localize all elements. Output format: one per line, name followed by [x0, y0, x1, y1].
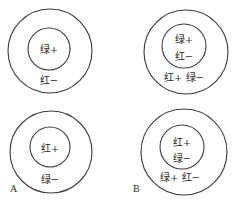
surround-label: 绿+ 红− [160, 171, 200, 183]
center-label-1: 绿+ [175, 33, 193, 45]
center-label-2: 绿− [173, 152, 191, 164]
panel-letter-a: A [10, 183, 18, 194]
panel-bottom-right: 红+ 绿− 绿+ 红− [141, 109, 227, 195]
center-label: 绿+ [40, 43, 58, 55]
panel-letter-b: B [133, 183, 140, 194]
center-label-1: 红+ [173, 136, 191, 148]
panel-top-left: 绿+ 红− [8, 9, 92, 93]
receptive-field-diagram: 绿+ 红− 绿+ 红− 红+ 绿− 红+ 绿− 红+ 绿− 绿+ 红− A B [0, 0, 233, 201]
panel-top-right: 绿+ 红− 红+ 绿− [144, 10, 228, 94]
panel-bottom-left: 红+ 绿− [10, 111, 92, 193]
surround-label: 绿− [41, 173, 59, 185]
center-label-2: 红− [175, 50, 193, 62]
center-label: 红+ [41, 142, 59, 154]
surround-label: 红+ 绿− [164, 71, 204, 83]
surround-label: 红− [40, 74, 58, 86]
